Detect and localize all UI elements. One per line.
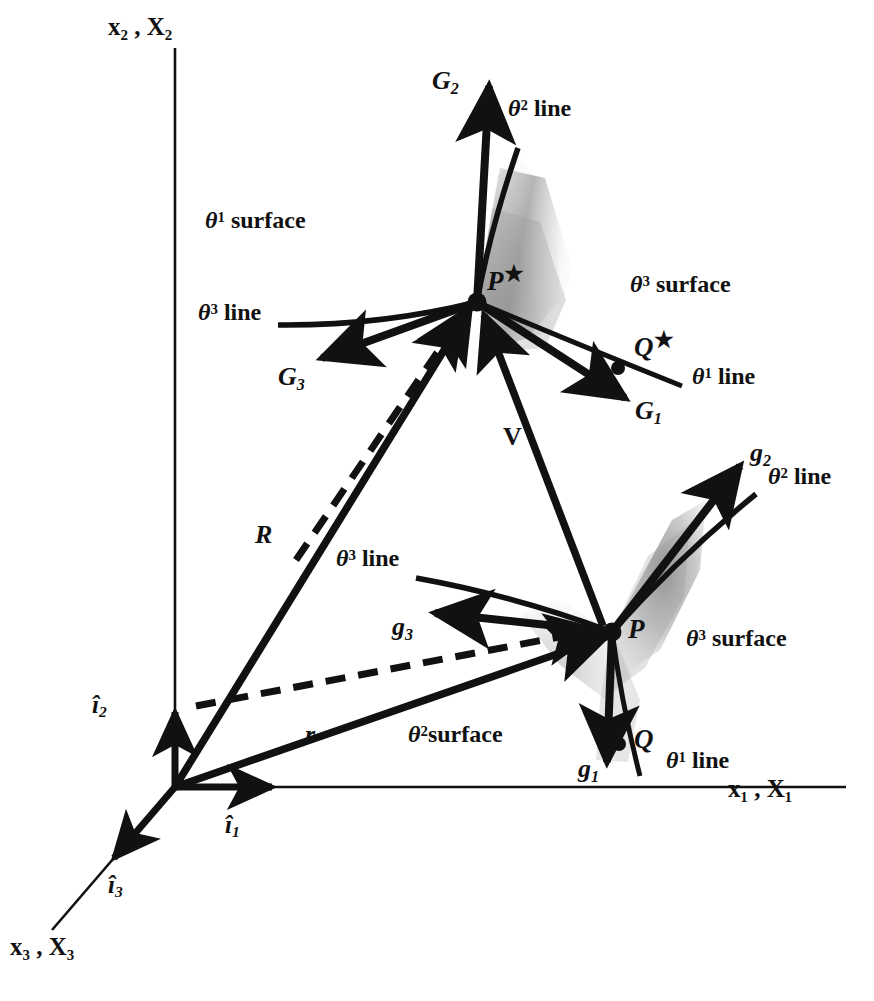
dashed-line-into-Pstar-left [296, 316, 462, 560]
i1-unit-vector-label: î1 [225, 812, 240, 840]
i2-unit-vector-label: î2 [92, 692, 107, 720]
Qstar-point-marker [611, 361, 625, 375]
g1-basis-vector [607, 632, 612, 762]
diagram-canvas [0, 0, 874, 1001]
theta3-surface-lower-label: θ3 surface [686, 626, 787, 650]
theta3-line-lower-label: θ3 line [336, 546, 399, 570]
x3-axis-label: x₃ , X₃ [10, 934, 74, 959]
theta1-line-upper-label: θ1 line [692, 364, 755, 388]
G3-basis-label: G3 [278, 364, 305, 393]
V-vector-label: V [503, 424, 522, 450]
R-vector [175, 308, 470, 787]
theta1-line-lower-label: θ1 line [666, 748, 729, 772]
Q-point-marker [612, 737, 626, 751]
r-vector [175, 637, 606, 787]
figure-root: x₂ , X₂ x₁ , X₁ x₃ , X₃ î2 î1 î3 R r V G… [0, 0, 874, 1001]
P-point-marker [603, 623, 622, 642]
Pstar-point-marker [468, 293, 487, 312]
P-point-label: P [628, 616, 645, 643]
Qstar-point-label: Q★ [634, 330, 674, 361]
i3-unit-vector-label: î3 [108, 872, 123, 900]
theta3-surface-upper-label: θ3 surface [630, 272, 731, 296]
R-vector-label: R [255, 522, 272, 548]
g1-basis-label: g1 [578, 756, 599, 785]
Q-point-label: Q [634, 726, 654, 753]
theta2-surface-label: θ2surface [408, 722, 503, 746]
r-vector-label: r [305, 722, 315, 748]
i3-unit-vector [114, 787, 175, 858]
g3-basis-label: g3 [392, 614, 413, 643]
x2-axis-label: x₂ , X₂ [108, 14, 172, 39]
G1-basis-label: G1 [635, 398, 662, 427]
x1-axis-label: x₁ , X₁ [728, 776, 792, 801]
G2-basis-label: G2 [432, 68, 459, 97]
theta2-line-upper-label: θ2 line [508, 96, 571, 120]
theta3-line-upper-label: θ3 line [198, 300, 261, 324]
theta2-line-lower-label: θ2 line [768, 464, 831, 488]
Pstar-point-label: P★ [487, 264, 524, 295]
V-vector [484, 315, 603, 626]
theta1-surface-label: θ1 surface [205, 208, 306, 232]
